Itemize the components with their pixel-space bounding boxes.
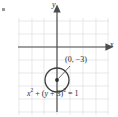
equation-operator-1: + (: [33, 89, 44, 98]
circle-and-center: [0, 0, 118, 117]
center-point-dot: [55, 78, 59, 82]
circle-equation-label: x2 + (y + 3)2 = 1: [27, 89, 79, 98]
y-axis-label: y: [52, 0, 56, 9]
center-point-label: (0, −3): [65, 55, 87, 64]
x-axis-label: x: [110, 40, 114, 49]
circle-graph-figure: y x (0, −3) x2 + (y + 3)2 = 1: [0, 0, 118, 117]
equation-term-2-rest: + 3): [48, 89, 63, 98]
equation-equals: = 1: [66, 89, 79, 98]
